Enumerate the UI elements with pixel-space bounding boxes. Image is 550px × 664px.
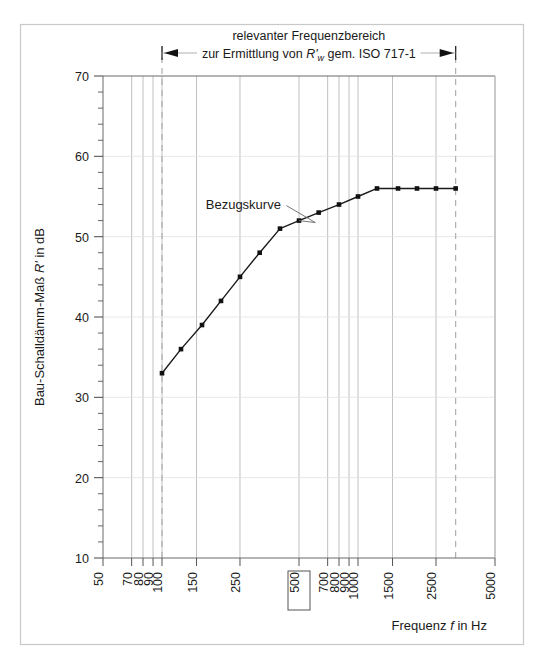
data-point-marker	[453, 186, 458, 191]
y-axis-title: Bau-Schalldämm-Maß R' in dB	[32, 228, 47, 406]
data-point-marker	[257, 250, 262, 255]
x-tick-label: 500	[288, 572, 302, 593]
x-tick-label: 1000	[347, 572, 361, 600]
x-tick-label: 1500	[382, 572, 396, 600]
arrow-right-icon	[440, 49, 454, 57]
range-title: relevanter Frequenzbereichzur Ermittlung…	[202, 29, 416, 63]
y-tick-label: 50	[75, 231, 89, 245]
x-tick-label: 50	[92, 572, 106, 586]
data-point-marker	[160, 371, 165, 376]
data-point-marker	[219, 299, 224, 304]
data-point-marker	[356, 194, 361, 199]
data-point-marker	[396, 186, 401, 191]
data-point-marker	[179, 347, 184, 352]
y-tick-label: 10	[75, 552, 89, 566]
data-point-marker	[337, 202, 342, 207]
range-title-line1: relevanter Frequenzbereich	[232, 29, 385, 43]
frequency-range-boundaries	[162, 46, 456, 558]
y-tick-label: 60	[75, 150, 89, 164]
y-tick-label: 70	[75, 70, 89, 84]
curve-label: Bezugskurve	[206, 197, 281, 212]
data-point-marker	[278, 226, 283, 231]
range-title-line2: zur Ermittlung von R'w gem. ISO 717-1	[202, 47, 416, 63]
data-point-marker	[375, 186, 380, 191]
data-point-marker	[415, 186, 420, 191]
x-axis-title: Frequenz f in Hz	[392, 618, 487, 633]
x-tick-label: 150	[186, 572, 200, 593]
reference-curve	[160, 186, 458, 375]
x-tick-label: 100	[151, 572, 165, 593]
y-tick-label: 20	[75, 472, 89, 486]
chart-figure: 10203040506070Bau-Schalldämm-Maß R' in d…	[0, 0, 550, 664]
x-tick-label: 5000	[484, 572, 498, 600]
arrow-left-icon	[164, 49, 178, 57]
y-tick-label: 40	[75, 311, 89, 325]
x-tick-label: 2500	[425, 572, 439, 600]
y-tick-label: 30	[75, 391, 89, 405]
figure-frame	[21, 25, 524, 645]
y-axis-ticks: 10203040506070	[75, 70, 103, 566]
data-point-marker	[316, 210, 321, 215]
x-tick-label: 250	[229, 572, 243, 593]
data-point-marker	[200, 323, 205, 328]
data-point-marker	[238, 275, 243, 280]
data-point-marker	[434, 186, 439, 191]
x-axis-ticks: 5070809010015025050070080090010001500250…	[92, 558, 498, 610]
